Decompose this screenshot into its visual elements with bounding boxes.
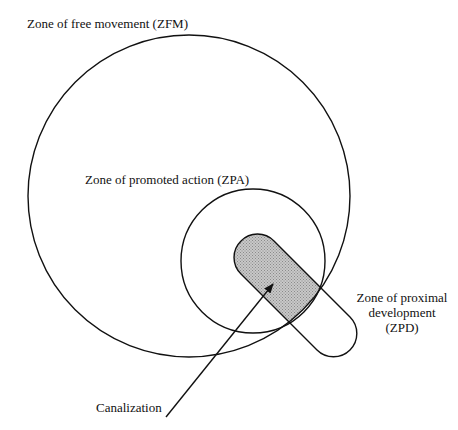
zpd-label-line-2: development (348, 305, 456, 320)
zone-diagram (0, 0, 458, 430)
zpd-shaded-region (234, 234, 357, 357)
zpd-label-line-3: (ZPD) (348, 320, 456, 335)
zfm-label: Zone of free movement (ZFM) (27, 16, 188, 31)
zpd-label: Zone of proximal development (ZPD) (348, 290, 456, 335)
zpd-label-line-1: Zone of proximal (348, 290, 456, 305)
canalization-label: Canalization (96, 400, 162, 415)
canalization-arrow (166, 284, 273, 417)
zpa-label: Zone of promoted action (ZPA) (85, 172, 249, 187)
